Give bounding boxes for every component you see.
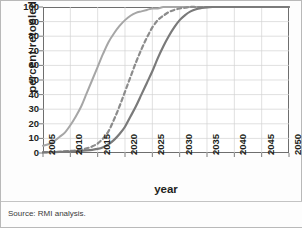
x-axis-label: year (43, 183, 289, 195)
x-tick-label: 2050 (293, 115, 302, 155)
y-axis-label: percent retooled (26, 0, 38, 122)
x-tick-label: 2035 (211, 115, 221, 155)
source-bar: Source: RMI analysis. (1, 201, 302, 227)
x-tick-label: 2020 (129, 115, 139, 155)
source-note: Source: RMI analysis. (8, 209, 86, 218)
figure-container: 0102030405060708090100 20052010201520202… (0, 0, 302, 228)
chart-area: 0102030405060708090100 20052010201520202… (1, 1, 302, 201)
x-tick-label: 2015 (102, 115, 112, 155)
x-tick-label: 2005 (47, 115, 57, 155)
x-tick-label: 2040 (238, 115, 248, 155)
x-tick-label: 2010 (74, 115, 84, 155)
x-tick-label: 2045 (266, 115, 276, 155)
x-tick-label: 2025 (156, 115, 166, 155)
x-axis-ticks: 2005201020152020202520302035204020452050 (1, 1, 302, 201)
x-tick-label: 2030 (184, 115, 194, 155)
